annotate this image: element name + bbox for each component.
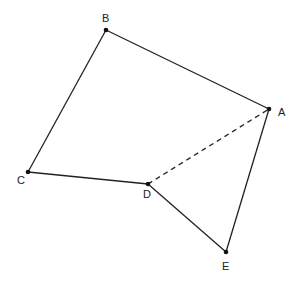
point-C <box>26 170 31 175</box>
point-E <box>224 250 229 255</box>
segment-DA <box>148 109 269 184</box>
point-B <box>104 28 109 33</box>
segment-BC <box>28 30 106 172</box>
segment-DE <box>148 184 226 252</box>
segment-EA <box>226 109 269 252</box>
label-B: B <box>102 12 109 24</box>
edges <box>28 30 269 252</box>
label-C: C <box>17 174 25 186</box>
points: ABCDE <box>17 12 286 272</box>
geometry-diagram: ABCDE <box>0 0 302 289</box>
label-E: E <box>222 260 229 272</box>
label-D: D <box>143 188 151 200</box>
label-A: A <box>278 106 286 118</box>
segment-BA <box>106 30 269 109</box>
segment-CD <box>28 172 148 184</box>
point-A <box>267 107 272 112</box>
point-D <box>146 182 151 187</box>
